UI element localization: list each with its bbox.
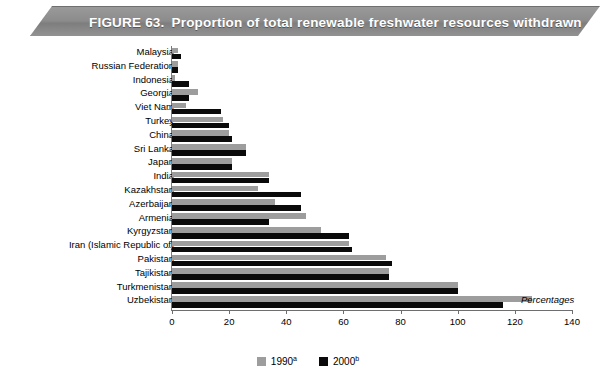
figure-title-banner: FIGURE 63. Proportion of total renewable… [0,6,616,42]
category-label: Malaysia [0,46,174,57]
y-axis-tick [168,192,172,193]
category-label: Turkmenistan [0,281,174,292]
x-tick [229,310,230,314]
bar-1990a [172,89,198,95]
x-tick-label: 60 [338,316,349,327]
chart-rows: MalaysiaRussian FederationIndonesiaGeorg… [0,47,616,309]
y-axis-tick [168,219,172,220]
x-tick [515,310,516,314]
chart-row: Kyrgyzstan [0,226,616,240]
x-tick-label: 0 [169,316,174,327]
y-axis-tick [168,247,172,248]
x-tick-label: 140 [564,316,580,327]
bar-2000b [172,136,232,142]
chart-row: Iran (Islamic Republic of) [0,240,616,254]
bar-2000b [172,192,301,198]
banner-shape: FIGURE 63. Proportion of total renewable… [30,6,602,38]
x-axis-line [172,310,572,311]
chart-row: Turkey [0,116,616,130]
bar-1990a [172,75,175,81]
category-label: Russian Federation [0,60,174,71]
y-axis-tick [168,136,172,137]
bar-2000b [172,109,221,115]
bar-2000b [172,233,349,239]
category-label: Tajikistan [0,267,174,278]
bar-2000b [172,150,246,156]
chart-row: Tajikistan [0,268,616,282]
bar-1990a [172,199,275,205]
bar-2000b [172,95,189,101]
bar-2000b [172,178,269,184]
bar-2000b [172,164,232,170]
bar-1990a [172,227,321,233]
bar-2000b [172,54,181,60]
bar-chart: MalaysiaRussian FederationIndonesiaGeorg… [0,44,616,344]
y-axis-tick [168,54,172,55]
chart-row: Japan [0,157,616,171]
bar-1990a [172,48,178,54]
category-label: Japan [0,156,174,167]
chart-legend: 1990a2000b [0,355,616,367]
category-label: Uzbekistan [0,294,174,305]
category-label: Georgia [0,87,174,98]
y-axis-tick [168,274,172,275]
bar-1990a [172,255,386,261]
category-label: Indonesia [0,74,174,85]
legend-label: 1990a [271,355,297,367]
legend-footnote-marker: a [293,355,297,362]
y-axis-tick [168,67,172,68]
category-label: Pakistan [0,253,174,264]
y-axis-tick [168,81,172,82]
y-axis-tick [168,178,172,179]
x-tick [343,310,344,314]
bar-1990a [172,268,389,274]
category-label: Armenia [0,212,174,223]
legend-series-name: 2000 [333,356,355,367]
bar-2000b [172,274,389,280]
chart-row: Georgia [0,88,616,102]
y-axis-tick [168,288,172,289]
y-axis-tick [168,302,172,303]
chart-row: Sri Lanka [0,144,616,158]
legend-item-2000[interactable]: 2000b [319,355,359,367]
bar-1990a [172,130,229,136]
x-tick-label: 20 [224,316,235,327]
bar-2000b [172,67,178,73]
bar-1990a [172,282,458,288]
bar-1990a [172,186,258,192]
chart-row: Russian Federation [0,61,616,75]
y-axis-tick [168,109,172,110]
bar-1990a [172,213,306,219]
x-tick [458,310,459,314]
x-tick [401,310,402,314]
bar-2000b [172,123,229,129]
x-tick-label: 40 [281,316,292,327]
chart-row: Malaysia [0,47,616,61]
chart-row: Azerbaijan [0,199,616,213]
bar-1990a [172,158,232,164]
figure-number: FIGURE 63. [89,15,165,30]
bar-2000b [172,302,503,308]
chart-row: Kazakhstan [0,185,616,199]
chart-row: Indonesia [0,75,616,89]
category-label: Viet Nam [0,101,174,112]
legend-item-1990[interactable]: 1990a [257,355,297,367]
banner-text: FIGURE 63. Proportion of total renewable… [89,15,582,30]
bar-1990a [172,103,186,109]
chart-row: Armenia [0,213,616,227]
x-tick [286,310,287,314]
category-label: Kyrgyzstan [0,225,174,236]
category-label: Azerbaijan [0,198,174,209]
legend-swatch-icon [319,357,328,366]
x-tick-label: 120 [507,316,523,327]
legend-footnote-marker: b [355,355,359,362]
category-label: China [0,129,174,140]
x-tick [572,310,573,314]
chart-row: India [0,171,616,185]
chart-row: Pakistan [0,254,616,268]
bar-2000b [172,81,189,87]
x-tick [172,310,173,314]
bar-2000b [172,219,269,225]
bar-2000b [172,261,392,267]
legend-label: 2000b [333,355,359,367]
